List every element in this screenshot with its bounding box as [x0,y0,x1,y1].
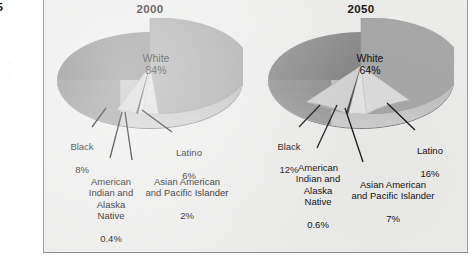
callout-value: 0.4% [100,233,122,244]
margin-text-faint-1: · [8,60,10,66]
callout-value: 7% [386,213,400,224]
pie-chart-2050: 2050 White 64% [255,0,467,253]
chart-title-2050: 2050 [255,3,467,15]
callout-label: Latino [417,145,443,156]
figure-panel: 2000 White 84% [43,0,468,253]
chart-title-2000: 2000 [44,3,256,15]
callout-label: Black [70,141,93,152]
callout-label: American Indian and Alaska Native [89,176,133,222]
pie-chart-2000: 2000 White 84% [44,0,256,253]
page-margin-text: ge 65 ty, · · [0,0,42,262]
margin-text-line-1: ge 65 [0,1,3,13]
pie-graphic-2000: White 84% [57,18,243,138]
pie-center-label-2050: White 64% [286,52,454,76]
callout-asian-american-2050: Asian American and Pacific Islander 7% [343,167,443,225]
margin-text-faint-2: · [8,70,10,76]
callout-value: 0.6% [307,219,329,230]
callout-label: Asian American and Pacific Islander [146,176,229,199]
callout-american-indian-2050: American Indian and Alaska Native 0.6% [287,150,349,231]
callout-label: American Indian and Alaska Native [296,162,340,208]
callout-label: Latino [176,147,202,158]
callout-label: Asian American and Pacific Islander [352,179,435,202]
pie-center-label-2000: White 84% [69,52,243,76]
callout-asian-american-2000: Asian American and Pacific Islander 2% [139,164,235,222]
callout-american-indian-2000: American Indian and Alaska Native 0.4% [80,164,142,245]
callout-value: 2% [180,210,194,221]
pie-graphic-2050: White 64% [268,18,454,138]
